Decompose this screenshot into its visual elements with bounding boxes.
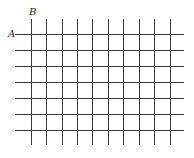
label-b: B bbox=[29, 7, 36, 17]
horizontal-lines bbox=[15, 35, 184, 131]
label-a: A bbox=[8, 29, 15, 39]
grid-diagram: B A bbox=[0, 0, 194, 158]
grid-lines bbox=[0, 0, 194, 158]
